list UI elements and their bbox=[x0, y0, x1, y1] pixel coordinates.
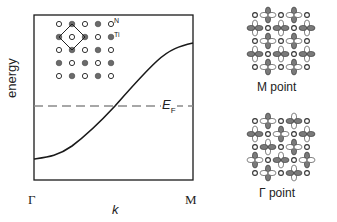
x-axis-label: k bbox=[112, 203, 119, 216]
tick-m: M bbox=[185, 193, 197, 206]
fermi-label-sub: F bbox=[171, 106, 176, 115]
gamma-point-caption: Γ point bbox=[259, 187, 295, 199]
fermi-level-label: EF bbox=[161, 98, 177, 115]
legend-ti-label: Ti bbox=[114, 31, 120, 38]
legend-n-label: N bbox=[114, 17, 119, 24]
y-axis-label: energy bbox=[4, 58, 19, 98]
tick-gamma: Γ bbox=[28, 193, 36, 206]
m-point-caption: M point bbox=[257, 81, 296, 93]
fermi-label-e: E bbox=[162, 97, 171, 112]
m-point-orbital-panel bbox=[247, 7, 315, 75]
gamma-point-orbital-panel bbox=[247, 113, 315, 181]
inset-lattice bbox=[56, 21, 114, 79]
